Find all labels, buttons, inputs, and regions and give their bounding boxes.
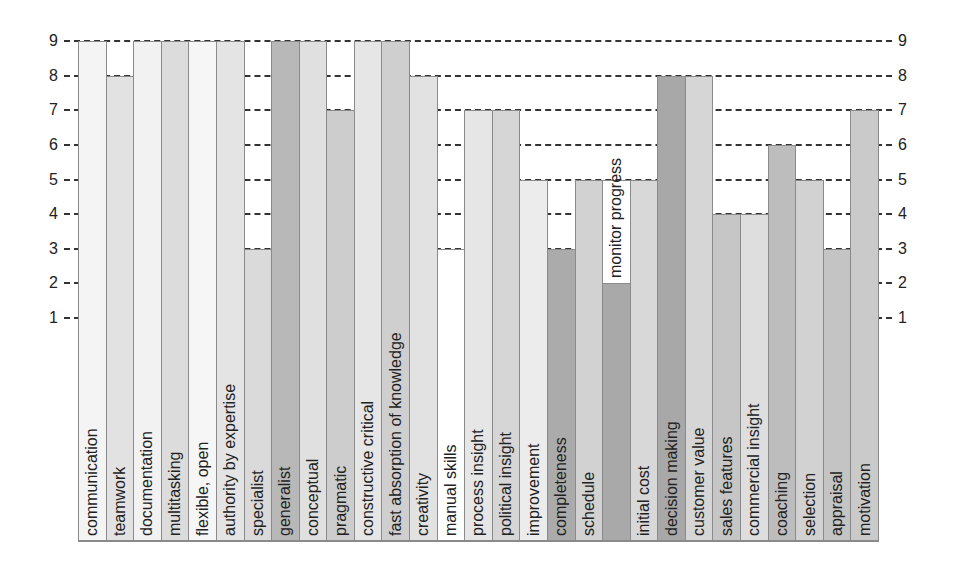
bar: multitasking xyxy=(161,41,190,541)
bar-label: coaching xyxy=(774,472,790,536)
y-tick-right-label: 6 xyxy=(898,137,907,153)
y-tick-left-label: 6 xyxy=(38,137,58,153)
y-tick-right-label: 9 xyxy=(898,33,907,49)
bar: customer value xyxy=(685,76,714,541)
bar-label: specialist xyxy=(250,470,266,536)
bar: fast absorption of knowledge xyxy=(381,41,410,541)
y-tick-left-label: 1 xyxy=(38,310,58,326)
y-tick-right-label: 3 xyxy=(898,241,907,257)
bar-label: documentation xyxy=(139,431,155,536)
y-tick-right-label: 7 xyxy=(898,102,907,118)
bar-label: political insight xyxy=(498,432,514,536)
y-tick-left-label: 4 xyxy=(38,206,58,222)
bar-label: authority by expertise xyxy=(222,384,238,536)
x-axis-baseline xyxy=(78,541,879,542)
bar-label: fast absorption of knowledge xyxy=(388,332,404,536)
bar: pragmatic xyxy=(326,110,355,541)
bar: generalist xyxy=(271,41,300,541)
bar: appraisal xyxy=(823,249,852,541)
bar: authority by expertise xyxy=(216,41,245,541)
bar: communication xyxy=(78,41,107,541)
bar: specialist xyxy=(244,249,273,541)
bar: motivation xyxy=(850,110,879,541)
bar: creativity xyxy=(409,76,438,541)
bar: documentation xyxy=(133,41,162,541)
bar-label: multitasking xyxy=(167,452,183,536)
bar-label: manual skills xyxy=(443,444,459,536)
bar-label: teamwork xyxy=(112,467,128,536)
y-tick-left-label: 5 xyxy=(38,172,58,188)
bar-label: flexible, open xyxy=(195,442,211,536)
bar: schedule xyxy=(575,180,604,542)
bar: coaching xyxy=(768,145,797,541)
y-tick-right-label: 1 xyxy=(898,310,907,326)
y-tick-right-label: 2 xyxy=(898,275,907,291)
bar-label: appraisal xyxy=(829,471,845,536)
bar xyxy=(602,283,631,541)
bar: flexible, open xyxy=(188,41,217,541)
bar-label: sales features xyxy=(719,436,735,536)
bar-label: schedule xyxy=(581,472,597,536)
bar: completeness xyxy=(547,249,576,541)
y-tick-left-label: 8 xyxy=(38,68,58,84)
bar-label: decision making xyxy=(664,421,680,536)
bar: improvement xyxy=(519,180,548,542)
y-tick-right-label: 4 xyxy=(898,206,907,222)
y-tick-right-label: 8 xyxy=(898,68,907,84)
y-tick-right-label: 5 xyxy=(898,172,907,188)
bar-label: conceptual xyxy=(305,459,321,536)
bar: teamwork xyxy=(106,76,135,541)
bar-label: completeness xyxy=(553,437,569,536)
bar-label: generalist xyxy=(277,467,293,536)
bar: initial cost xyxy=(630,180,659,542)
bar: decision making xyxy=(657,76,686,541)
bar-label: communication xyxy=(84,428,100,536)
bar: conceptual xyxy=(299,41,328,541)
bar-label: selection xyxy=(802,473,818,536)
bar-chart: communicationteamworkdocumentationmultit… xyxy=(0,0,957,569)
bar: selection xyxy=(795,180,824,542)
bar-label: creativity xyxy=(415,473,431,536)
bar-label: constructive critical xyxy=(360,401,376,536)
bar-label: process insight xyxy=(470,429,486,536)
y-tick-left-label: 7 xyxy=(38,102,58,118)
y-tick-left-label: 3 xyxy=(38,241,58,257)
y-tick-left-label: 9 xyxy=(38,33,58,49)
bar-label: improvement xyxy=(526,444,542,536)
bar-label: commercial insight xyxy=(746,404,762,536)
bar: sales features xyxy=(712,214,741,541)
bar: manual skills xyxy=(437,249,466,541)
bar: political insight xyxy=(492,110,521,541)
y-axis-line xyxy=(78,41,79,541)
bar: constructive critical xyxy=(354,41,383,541)
bar-label: pragmatic xyxy=(333,466,349,536)
bar-label-backdrop: monitor progress xyxy=(602,180,631,284)
y-tick-left-label: 2 xyxy=(38,275,58,291)
bar-label: monitor progress xyxy=(608,158,624,278)
bar: process insight xyxy=(464,110,493,541)
bar-label: motivation xyxy=(857,463,873,536)
bar-label: customer value xyxy=(691,428,707,537)
bar: commercial insight xyxy=(740,214,769,541)
bar-label: initial cost xyxy=(636,466,652,536)
